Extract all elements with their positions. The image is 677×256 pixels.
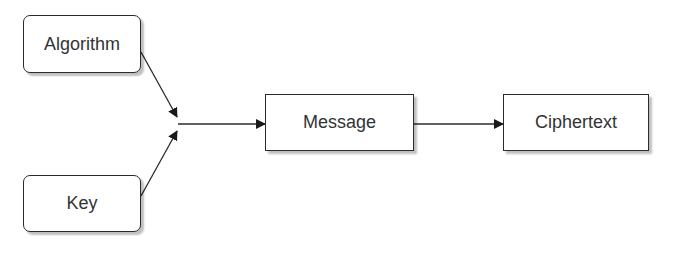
edge-key-to-junction bbox=[141, 131, 177, 196]
node-algorithm: Algorithm bbox=[23, 15, 141, 73]
node-label: Ciphertext bbox=[535, 112, 617, 133]
node-message: Message bbox=[265, 94, 414, 151]
node-key: Key bbox=[23, 175, 141, 232]
node-ciphertext: Ciphertext bbox=[503, 94, 649, 151]
node-label: Algorithm bbox=[44, 34, 120, 55]
edge-algorithm-to-junction bbox=[141, 52, 177, 117]
node-label: Key bbox=[66, 193, 97, 214]
node-label: Message bbox=[303, 112, 376, 133]
